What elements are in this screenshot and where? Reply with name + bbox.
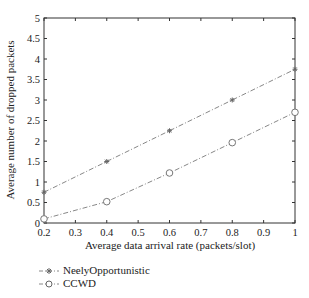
- y-tick-label: 0: [35, 218, 40, 229]
- legend-label: NeelyOpportunistic: [63, 264, 150, 277]
- legend: NeelyOpportunistic CCWD: [38, 264, 150, 290]
- axis-ticks: 0.20.30.40.50.60.70.80.9100.511.522.533.…: [27, 13, 298, 239]
- asterisk-marker-icon: [167, 128, 172, 133]
- y-tick-label: 3.5: [27, 74, 40, 85]
- y-tick-label: 1: [35, 177, 40, 188]
- x-tick-label: 0.9: [257, 227, 270, 238]
- svg-text:Average number of dropped pack: Average number of dropped packets: [4, 40, 16, 199]
- x-tick-label: 0.7: [194, 227, 207, 238]
- asterisk-marker-icon: [38, 264, 60, 277]
- circle-marker-icon: [41, 216, 48, 223]
- x-tick-label: 0.2: [37, 227, 50, 238]
- circle-marker-icon: [292, 109, 299, 116]
- x-tick-label: 0.6: [163, 227, 176, 238]
- y-tick-label: 4.5: [27, 33, 40, 44]
- asterisk-marker-icon: [42, 190, 47, 195]
- circle-marker-icon: [38, 277, 60, 290]
- y-tick-label: 1.5: [27, 156, 40, 167]
- legend-item-ccwd: CCWD: [38, 277, 150, 290]
- y-tick-label: 2.5: [27, 115, 40, 126]
- line-chart: Average number of dropped packets Averag…: [0, 0, 309, 262]
- y-tick-label: 3: [35, 95, 40, 106]
- y-tick-label: 0.5: [27, 197, 40, 208]
- x-axis-label: Average data arrival rate (packets/slot): [85, 239, 256, 252]
- x-tick-label: 0.3: [69, 227, 82, 238]
- legend-item-neelyopportunistic: NeelyOpportunistic: [38, 264, 150, 277]
- x-tick-label: 0.8: [226, 227, 239, 238]
- x-tick-label: 1: [292, 227, 297, 238]
- asterisk-marker-icon: [230, 98, 235, 103]
- y-axis-label: Average number of dropped packets: [4, 40, 16, 199]
- y-tick-label: 4: [35, 54, 41, 65]
- x-tick-label: 0.4: [100, 227, 114, 238]
- series-layer: [41, 67, 299, 222]
- circle-marker-icon: [166, 170, 173, 177]
- y-tick-label: 5: [35, 13, 40, 24]
- legend-label: CCWD: [63, 277, 96, 290]
- y-tick-label: 2: [35, 136, 40, 147]
- asterisk-marker-icon: [293, 67, 298, 72]
- asterisk-marker-icon: [104, 159, 109, 164]
- circle-marker-icon: [229, 139, 236, 146]
- x-tick-label: 0.5: [132, 227, 145, 238]
- circle-marker-icon: [103, 198, 110, 205]
- plot-area-frame: [44, 18, 295, 223]
